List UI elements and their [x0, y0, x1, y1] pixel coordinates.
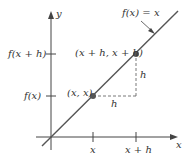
y-tick-label-fx: f(x) [24, 91, 41, 101]
x-axis-label: x [176, 140, 182, 150]
x-tick-label-x: x [90, 145, 96, 155]
horizontal-increment-label: h [111, 99, 117, 109]
point-label-xh-xh: (x + h, x + h) [75, 48, 143, 58]
x-tick-label-xh: x + h [125, 145, 152, 155]
function-label-arrow-icon [148, 28, 155, 34]
function-line [42, 11, 178, 146]
point-label-x-x: (x, x) [67, 88, 92, 98]
diagram-canvas [0, 0, 193, 163]
y-axis-arrow-icon [48, 11, 54, 19]
y-tick-label-fxh: f(x + h) [8, 49, 46, 59]
function-label: f(x) = x [122, 8, 160, 18]
vertical-increment-label: h [140, 70, 146, 80]
y-axis-label: y [56, 9, 62, 19]
